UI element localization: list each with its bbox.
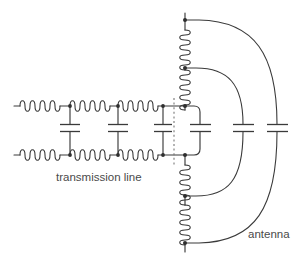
antenna-cap1-top-lead (185, 106, 200, 124)
node-dot (116, 153, 120, 157)
circuit-svg: transmission line antenna (0, 0, 307, 262)
node-dot (183, 66, 187, 70)
node-dot (68, 153, 72, 157)
inductor-top-3 (118, 101, 158, 112)
inductor-bottom-2 (70, 150, 110, 161)
transmission-line-nodes (68, 104, 165, 157)
node-dot (183, 241, 187, 245)
node-dot (161, 104, 165, 108)
antenna-arcs-lower (185, 132, 277, 243)
antenna-arc-outer-lower (185, 132, 277, 243)
antenna-arc-mid-lower (185, 132, 243, 196)
transmission-line-label: transmission line (56, 171, 142, 183)
antenna-capacitor-1 (185, 106, 211, 155)
circuit-diagram: transmission line antenna (0, 0, 307, 262)
inductor-top-1 (20, 101, 60, 112)
shunt-capacitor-2 (108, 106, 128, 155)
antenna-capacitor-2 (233, 125, 254, 132)
antenna-inductor-bottom-2 (180, 205, 191, 245)
inductor-top-2 (70, 101, 110, 112)
inductor-bottom-1 (20, 150, 60, 161)
transmission-line-top-rail (14, 101, 185, 112)
antenna-trunk (180, 13, 191, 252)
node-dot (161, 153, 165, 157)
node-dot (183, 194, 187, 198)
node-dot (116, 104, 120, 108)
shunt-capacitor-1 (60, 106, 80, 155)
antenna-inductor-top-1 (180, 30, 191, 70)
inductor-bottom-3 (118, 150, 158, 161)
node-dot (68, 104, 72, 108)
shunt-capacitor-3 (154, 106, 172, 155)
antenna-nodes (183, 18, 187, 245)
antenna-label: antenna (248, 228, 290, 240)
antenna-capacitor-3 (267, 125, 288, 132)
antenna-cap1-bottom-lead (185, 132, 200, 155)
node-dot (183, 153, 187, 157)
node-dot (183, 104, 187, 108)
transmission-line-bottom-rail (14, 150, 185, 161)
antenna-arc-mid-upper (185, 68, 243, 124)
node-dot (183, 18, 187, 22)
